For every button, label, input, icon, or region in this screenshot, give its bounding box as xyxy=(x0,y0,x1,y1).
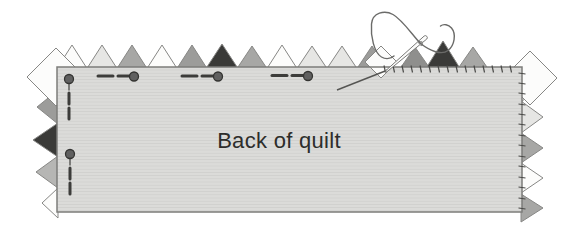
prairie-point-triangle xyxy=(521,194,543,222)
pin-head-icon xyxy=(214,72,223,81)
pin-head-icon xyxy=(65,75,74,84)
prairie-point-triangle xyxy=(33,123,58,157)
prairie-point-triangle xyxy=(521,101,543,133)
pin-head-icon xyxy=(66,150,75,159)
quilt-illustration: Back of quilt xyxy=(0,0,570,230)
prairie-point-triangle xyxy=(42,188,58,218)
quilt-diagram: Back of quilt xyxy=(0,0,570,230)
pin-head-icon xyxy=(130,72,139,81)
quilt-label: Back of quilt xyxy=(217,128,341,153)
pin-head-icon xyxy=(304,72,313,81)
prairie-point-triangle xyxy=(521,133,543,163)
prairie-point-triangle xyxy=(205,44,239,70)
prairie-point-triangle xyxy=(36,156,58,188)
